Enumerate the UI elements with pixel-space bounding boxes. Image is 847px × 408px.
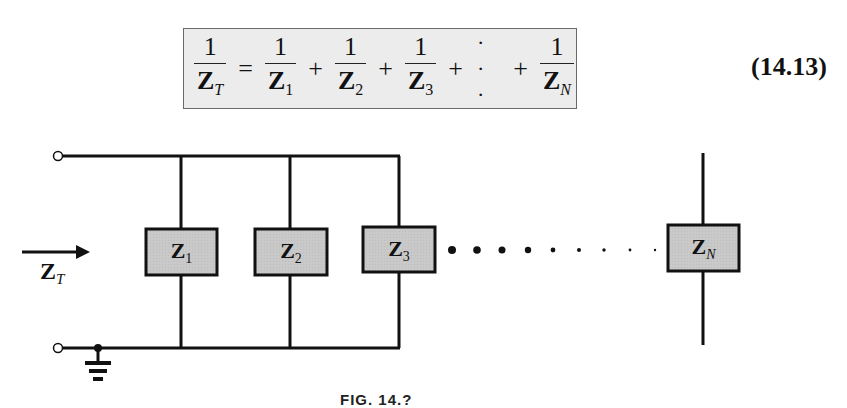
symbol-z: Z: [40, 258, 56, 284]
subscript: T: [56, 271, 64, 287]
symbol-z: Z: [280, 238, 295, 263]
impedance-label-z3: Z3: [363, 236, 435, 265]
bottom-terminal-icon: [54, 344, 63, 353]
subscript: N: [706, 247, 715, 262]
top-terminal-icon: [54, 152, 63, 161]
continuation-dots-icon: [448, 246, 656, 254]
ground-icon: [85, 344, 111, 381]
subscript: 3: [403, 249, 410, 264]
impedance-label-zn: ZN: [668, 234, 739, 263]
total-impedance-label: ZT: [40, 258, 64, 288]
subscript: 1: [185, 251, 192, 266]
symbol-z: Z: [388, 236, 403, 261]
impedance-label-z1: Z1: [146, 238, 217, 267]
arrow-icon: [22, 245, 90, 259]
symbol-z: Z: [171, 238, 186, 263]
figure-caption: FIG. 14.?: [340, 391, 412, 408]
subscript: 2: [295, 251, 302, 266]
symbol-z: Z: [691, 234, 706, 259]
impedance-label-z2: Z2: [255, 238, 327, 267]
